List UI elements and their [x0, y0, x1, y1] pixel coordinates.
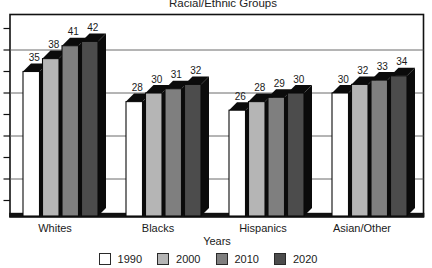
bar-side-3d	[201, 76, 209, 216]
bar-value-label: 33	[377, 61, 389, 72]
legend-label-2000: 2000	[176, 253, 200, 265]
bar-Whites-2020	[82, 41, 99, 216]
bar-Blacks-2010	[165, 89, 182, 216]
bar-Hispanics-2020	[288, 93, 305, 216]
bar-value-label: 26	[235, 91, 247, 102]
legend-label-2010: 2010	[235, 253, 259, 265]
x-axis-label: Years	[203, 235, 231, 247]
chart-legend: 1990200020102020	[0, 253, 416, 265]
bar-value-label: 38	[48, 39, 60, 50]
legend-item-2010: 2010	[216, 253, 259, 265]
bar-side-3d	[304, 85, 312, 216]
legend-item-1990: 1990	[99, 253, 142, 265]
chart-canvas: Racial/Ethnic Groups 3538414228303132262…	[0, 0, 432, 268]
bar-value-label: 31	[171, 69, 183, 80]
bar-value-label: 30	[151, 74, 163, 85]
bar-value-label: 28	[254, 82, 266, 93]
bar-value-label: 28	[132, 82, 144, 93]
bar-Hispanics-1990	[229, 110, 246, 216]
bar-value-label: 30	[293, 74, 305, 85]
bar-value-label: 30	[338, 74, 350, 85]
bar-side-3d	[407, 68, 415, 216]
bar-value-label: 42	[87, 22, 99, 33]
bar-chart-plot: 35384142283031322628293030323334WhitesBl…	[0, 0, 432, 268]
bar-Hispanics-2000	[249, 102, 266, 216]
bar-value-label: 32	[357, 65, 369, 76]
category-label-0: Whites	[38, 222, 72, 234]
legend-label-2020: 2020	[293, 253, 317, 265]
bar-Blacks-1990	[126, 102, 143, 216]
legend-swatch-2020	[274, 253, 286, 265]
bar-value-label: 34	[396, 56, 408, 67]
legend-swatch-1990	[99, 253, 111, 265]
bar-Asian/Other-2020	[391, 76, 408, 216]
category-label-1: Blacks	[142, 222, 175, 234]
bar-Hispanics-2010	[268, 97, 285, 216]
legend-item-2000: 2000	[157, 253, 200, 265]
bar-Whites-1990	[23, 72, 40, 217]
legend-item-2020: 2020	[274, 253, 317, 265]
bar-value-label: 29	[274, 78, 286, 89]
bar-Asian/Other-2010	[371, 80, 388, 216]
bar-Asian/Other-1990	[332, 93, 349, 216]
bar-Blacks-2000	[146, 93, 163, 216]
category-label-3: Asian/Other	[333, 222, 391, 234]
category-label-2: Hispanics	[239, 222, 287, 234]
bar-Whites-2000	[43, 59, 60, 216]
legend-swatch-2000	[157, 253, 169, 265]
bar-Blacks-2020	[185, 84, 202, 216]
bar-Asian/Other-2000	[352, 84, 369, 216]
bar-value-label: 41	[68, 26, 80, 37]
legend-label-1990: 1990	[118, 253, 142, 265]
bar-side-3d	[98, 33, 106, 216]
bar-value-label: 35	[29, 52, 41, 63]
bar-Whites-2010	[62, 46, 79, 216]
bar-value-label: 32	[190, 65, 202, 76]
legend-swatch-2010	[216, 253, 228, 265]
